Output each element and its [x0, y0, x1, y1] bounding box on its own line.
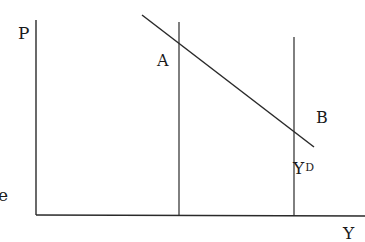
demand-curve-label-main: Y [293, 158, 304, 178]
point-b-label: B [316, 110, 328, 126]
demand-curve-label-sup: D [305, 161, 314, 174]
demand-curve-label: YD [293, 160, 314, 177]
price-axis-label: P [18, 25, 29, 42]
clipped-left-text: e [0, 187, 8, 204]
point-a-label: A [157, 53, 169, 69]
demand-curve [142, 15, 314, 147]
x-axis [36, 215, 365, 216]
output-axis-label: Y [343, 225, 354, 242]
diagram-canvas [0, 0, 365, 242]
